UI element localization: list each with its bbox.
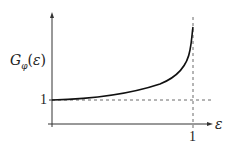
x-tick-label: 1 xyxy=(189,130,196,144)
y-axis-label: Gφ(ε) xyxy=(10,53,46,71)
plot-canvas xyxy=(0,0,234,148)
x-axis-arrow-icon xyxy=(207,122,213,126)
curve-series xyxy=(52,27,193,100)
y-tick-label: 1 xyxy=(40,93,47,107)
y-axis-arrow-icon xyxy=(50,12,54,18)
x-axis-label: ε xyxy=(215,117,223,131)
